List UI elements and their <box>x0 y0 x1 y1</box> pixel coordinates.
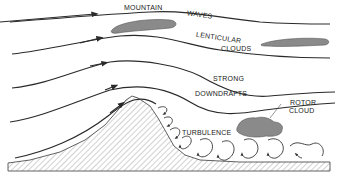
lenticular-cloud-1 <box>111 19 176 33</box>
label-clouds: CLOUDS <box>221 45 251 52</box>
label-rotor: ROTOR <box>290 99 316 106</box>
lenticular-cloud-2 <box>261 38 329 46</box>
mountain-terrain <box>8 96 330 171</box>
label-turbulence: TURBULENCE <box>182 129 231 136</box>
diagram-canvas <box>0 0 337 181</box>
label-strong: STRONG <box>213 75 244 82</box>
label-rotor-cloud: CLOUD <box>289 107 315 114</box>
mountain-wave-diagram: MOUNTAIN WAVES LENTICULAR CLOUDS STRONG … <box>0 0 337 181</box>
label-downdrafts: DOWNDRAFTS <box>195 90 247 97</box>
label-mountain: MOUNTAIN <box>124 4 162 11</box>
